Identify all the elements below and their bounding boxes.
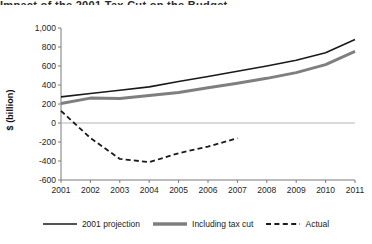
x-tick-label: 2010 [312, 186, 340, 195]
x-tick-label: 2008 [253, 186, 281, 195]
y-tick-label: 0 [20, 119, 56, 128]
legend-item-taxcut: Including tax cut [153, 219, 253, 229]
x-tick-label: 2007 [223, 186, 251, 195]
chart-legend: 2001 projection Including tax cut Actual [0, 213, 372, 235]
legend-label-projection: 2001 projection [82, 219, 140, 229]
series-line-actual [61, 111, 237, 162]
x-tick-label: 2001 [47, 186, 75, 195]
legend-item-projection: 2001 projection [43, 219, 140, 229]
series-lines [61, 39, 355, 162]
legend-label-taxcut: Including tax cut [192, 219, 253, 229]
x-tick-label: 2009 [282, 186, 310, 195]
x-tick-label: 2006 [194, 186, 222, 195]
y-tick-label: -200 [20, 138, 56, 147]
legend-item-actual: Actual [266, 219, 329, 229]
y-tick-label: 800 [20, 43, 56, 52]
chart-figure: Impact of the 2001 Tax Cut on the Budget… [0, 0, 372, 244]
x-tick-label: 2002 [76, 186, 104, 195]
y-tick-label: 600 [20, 62, 56, 71]
y-tick-label: 400 [20, 81, 56, 90]
x-tick-label: 2004 [135, 186, 163, 195]
x-tick-label: 2011 [341, 186, 369, 195]
tick-marks [58, 28, 355, 183]
y-tick-label: -400 [20, 157, 56, 166]
y-tick-label: -600 [20, 176, 56, 185]
legend-swatch-solid-thin [43, 219, 77, 229]
x-tick-label: 2003 [106, 186, 134, 195]
legend-swatch-solid-thick [153, 219, 187, 229]
x-tick-label: 2005 [165, 186, 193, 195]
legend-label-actual: Actual [305, 219, 329, 229]
y-tick-label: 1,000 [20, 24, 56, 33]
y-tick-label: 200 [20, 100, 56, 109]
legend-swatch-dashed [266, 219, 300, 229]
series-line-including-tax-cut [61, 51, 355, 103]
